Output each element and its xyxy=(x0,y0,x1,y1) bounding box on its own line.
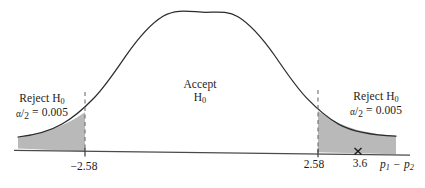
accept-hypothesis-subscript: 0 xyxy=(202,96,206,105)
observed-statistic-tick-label: 3.6 xyxy=(344,157,376,170)
accept-hypothesis-symbol: H xyxy=(194,91,202,103)
right-alpha-denominator: 2 xyxy=(358,109,363,119)
left-rejection-text: Reject H xyxy=(19,92,60,104)
left-alpha-symbol: α xyxy=(16,109,21,119)
left-rejection-subscript: 0 xyxy=(61,97,65,106)
lower-critical-tick-label: −2.58 xyxy=(55,160,113,173)
right-alpha-fraction: α/2 xyxy=(350,105,363,120)
left-alpha-fraction: α/2 xyxy=(16,107,29,122)
axis-title-operator: − xyxy=(390,158,404,170)
right-alpha-symbol: α xyxy=(350,107,355,117)
accept-region-label: Accept H0 xyxy=(152,78,248,105)
left-alpha-line: α/2 = 0.005 xyxy=(2,106,82,122)
x-axis-title: p1 − p2 xyxy=(380,158,414,172)
accept-hypothesis-line: H0 xyxy=(152,91,248,105)
right-alpha-line: α/2 = 0.005 xyxy=(330,104,422,120)
left-rejection-label: Reject H0 α/2 = 0.005 xyxy=(2,92,82,122)
axis-title-sub2: 2 xyxy=(410,163,414,172)
accept-text: Accept xyxy=(183,78,216,90)
upper-critical-tick-label: 2.58 xyxy=(292,158,336,171)
right-rejection-text: Reject H xyxy=(353,90,394,102)
left-alpha-denominator: 2 xyxy=(24,111,29,121)
hypothesis-test-figure: Reject H0 α/2 = 0.005 Accept H0 Reject H… xyxy=(0,0,425,188)
left-alpha-value: = 0.005 xyxy=(32,106,68,118)
right-rejection-label: Reject H0 α/2 = 0.005 xyxy=(330,90,422,120)
right-alpha-value: = 0.005 xyxy=(366,104,402,116)
right-rejection-subscript: 0 xyxy=(395,95,399,104)
